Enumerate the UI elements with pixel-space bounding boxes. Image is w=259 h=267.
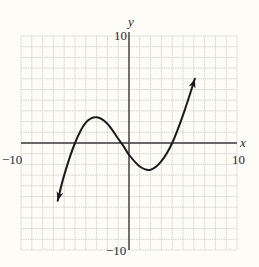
y-min-label: −10	[106, 243, 126, 258]
x-axis-label: x	[239, 135, 246, 150]
y-axis-label: y	[126, 14, 134, 29]
function-graph: −10 10 10 −10 x y	[0, 0, 259, 267]
function-curve	[58, 79, 195, 201]
x-max-label: 10	[232, 152, 245, 167]
y-max-label: 10	[114, 28, 127, 43]
x-min-label: −10	[2, 152, 22, 167]
